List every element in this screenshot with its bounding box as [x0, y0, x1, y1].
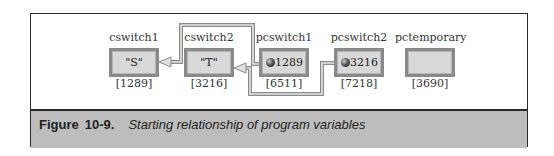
variable-address: [1289] — [99, 77, 169, 90]
variable-value: 3216 — [350, 56, 378, 69]
pointer-ball-icon — [266, 58, 275, 67]
variable-box: "S" — [109, 48, 159, 77]
variable-name: pcswitch1 — [249, 31, 319, 44]
variable-address: [3216] — [174, 77, 244, 90]
variable-value: "T" — [200, 56, 217, 69]
caption-band: Figure10-9.Starting relationship of prog… — [31, 109, 527, 148]
variable-box: 1289 — [259, 48, 309, 77]
figure-label: Figure — [39, 117, 79, 132]
variable-name: pcswitch2 — [324, 31, 394, 44]
variable-box: 3216 — [334, 48, 384, 77]
pointer-ball-icon — [341, 58, 350, 67]
figure-caption-text: Starting relationship of program variabl… — [128, 117, 365, 132]
variable-address: [7218] — [324, 77, 394, 90]
variable-box: "T" — [184, 48, 234, 77]
variable-name: cswitch1 — [99, 31, 169, 44]
figure-caption: Figure10-9.Starting relationship of prog… — [39, 117, 365, 132]
figure-number: 10-9. — [85, 117, 115, 132]
variable-box — [405, 48, 455, 77]
variable-value: "S" — [125, 56, 143, 69]
variable-value: 1289 — [275, 56, 303, 69]
variable-address: [3690] — [395, 77, 465, 90]
variable-address: [6511] — [249, 77, 319, 90]
variable-name: cswitch2 — [174, 31, 244, 44]
variable-name: pctemporary — [395, 31, 465, 44]
